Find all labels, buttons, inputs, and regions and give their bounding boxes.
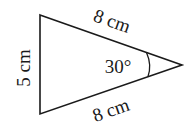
angle-label: 30°: [105, 56, 132, 77]
angle-arc: [147, 53, 150, 77]
side-label-top: 8 cm: [91, 5, 134, 37]
triangle-diagram: 5 cm 8 cm 8 cm 30°: [0, 0, 194, 131]
side-label-left: 5 cm: [13, 49, 34, 87]
side-label-bottom: 8 cm: [90, 94, 133, 126]
